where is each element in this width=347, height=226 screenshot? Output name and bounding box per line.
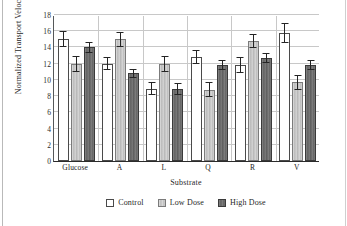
bar-a-low-dose[interactable] xyxy=(115,39,126,161)
error-bar xyxy=(281,23,288,42)
bar-group-q xyxy=(187,16,231,161)
error-bar-cap-top xyxy=(148,82,155,83)
bar-v-low-dose[interactable] xyxy=(292,82,303,161)
error-bar-cap-top xyxy=(263,53,270,54)
bar-slot xyxy=(128,16,139,161)
y-tick-label-14: 14 xyxy=(43,45,51,53)
error-bar-cap-top xyxy=(294,75,301,76)
y-tick-label-16: 16 xyxy=(43,28,51,36)
bar-q-low-dose[interactable] xyxy=(204,90,215,161)
error-bar-stem xyxy=(209,82,210,97)
y-tick-label-8: 8 xyxy=(47,93,51,101)
error-bar-cap-top xyxy=(250,34,257,35)
bar-group-a xyxy=(98,16,142,161)
gridline-y-18 xyxy=(54,14,319,15)
error-bar xyxy=(219,60,226,70)
error-bar-cap-top xyxy=(307,60,314,61)
error-bar-cap-top xyxy=(161,56,168,57)
bar-slot xyxy=(248,16,259,161)
error-bar-cap-bottom xyxy=(219,69,226,70)
error-bar xyxy=(174,83,181,94)
legend-label: High Dose xyxy=(230,198,266,207)
y-tick-label-4: 4 xyxy=(47,126,51,134)
error-bar xyxy=(130,69,137,79)
error-bar-cap-bottom xyxy=(250,47,257,48)
bar-q-high-dose[interactable] xyxy=(217,65,228,161)
error-bar-stem xyxy=(164,56,165,72)
bar-slot xyxy=(235,16,246,161)
error-bar-cap-bottom xyxy=(307,69,314,70)
error-bar-cap-bottom xyxy=(60,46,67,47)
error-bar-cap-bottom xyxy=(130,77,137,78)
error-bar-cap-top xyxy=(73,56,80,57)
error-bar-stem xyxy=(120,32,121,47)
bar-slot xyxy=(217,16,228,161)
bar-slot xyxy=(58,16,69,161)
bar-slot xyxy=(305,16,316,161)
error-bar-cap-top xyxy=(237,57,244,58)
bar-r-high-dose[interactable] xyxy=(261,58,272,161)
error-bar xyxy=(250,34,257,49)
error-bar-cap-bottom xyxy=(161,71,168,72)
error-bar xyxy=(206,82,213,97)
page-edge-rule-left xyxy=(2,0,3,226)
bar-l-high-dose[interactable] xyxy=(172,89,183,161)
error-bar-cap-top xyxy=(219,60,226,61)
bar-group-glucose xyxy=(54,16,98,161)
error-bar-cap-bottom xyxy=(263,62,270,63)
legend-item-low-dose[interactable]: Low Dose xyxy=(158,198,204,207)
bar-q-control[interactable] xyxy=(191,57,202,161)
error-bar-cap-bottom xyxy=(281,42,288,43)
x-tick-label-l: L xyxy=(161,164,166,172)
error-bar-cap-top xyxy=(174,83,181,84)
error-bar xyxy=(237,57,244,73)
bar-slot xyxy=(204,16,215,161)
legend-swatch-icon xyxy=(106,199,114,207)
bar-l-low-dose[interactable] xyxy=(159,64,170,161)
plot-area xyxy=(53,16,319,162)
bar-slot xyxy=(191,16,202,161)
error-bar-cap-top xyxy=(117,32,124,33)
error-bar-cap-bottom xyxy=(73,71,80,72)
error-bar-cap-bottom xyxy=(206,96,213,97)
bar-r-control[interactable] xyxy=(235,65,246,161)
error-bar xyxy=(60,31,67,47)
error-bar-cap-top xyxy=(281,23,288,24)
y-tick-label-2: 2 xyxy=(47,142,51,150)
bar-chart-figure: Normalized Transport Velocity 0246810121… xyxy=(0,0,347,226)
error-bar-cap-bottom xyxy=(193,63,200,64)
error-bar xyxy=(73,56,80,72)
y-axis-tick-labels: 024681012141618 xyxy=(30,16,51,162)
bar-r-low-dose[interactable] xyxy=(248,41,259,161)
bar-slot xyxy=(279,16,290,161)
y-tick-label-18: 18 xyxy=(43,12,51,20)
bar-slot xyxy=(84,16,95,161)
legend-swatch-icon xyxy=(218,199,226,207)
error-bar xyxy=(117,32,124,47)
x-tick-label-glucose: Glucose xyxy=(62,164,88,172)
chart-legend: ControlLow DoseHigh Dose xyxy=(53,198,319,207)
legend-item-control[interactable]: Control xyxy=(106,198,144,207)
bar-slot xyxy=(146,16,157,161)
bar-a-high-dose[interactable] xyxy=(128,73,139,161)
bar-slot xyxy=(102,16,113,161)
bar-glucose-control[interactable] xyxy=(58,39,69,161)
error-bar-cap-top xyxy=(206,82,213,83)
legend-swatch-icon xyxy=(158,199,166,207)
bar-glucose-low-dose[interactable] xyxy=(71,64,82,161)
bar-v-high-dose[interactable] xyxy=(305,65,316,161)
y-axis-title: Normalized Transport Velocity xyxy=(14,0,23,98)
error-bar xyxy=(294,75,301,90)
error-bar-cap-top xyxy=(193,50,200,51)
y-tick-label-0: 0 xyxy=(47,158,51,166)
error-bar-stem xyxy=(253,34,254,49)
bar-l-control[interactable] xyxy=(146,89,157,161)
bar-glucose-high-dose[interactable] xyxy=(84,47,95,161)
error-bar-cap-top xyxy=(60,31,67,32)
error-bar xyxy=(307,60,314,70)
error-bar-stem xyxy=(76,56,77,72)
bar-a-control[interactable] xyxy=(102,64,113,161)
bar-v-control[interactable] xyxy=(279,33,290,161)
legend-item-high-dose[interactable]: High Dose xyxy=(218,198,266,207)
error-bar-cap-bottom xyxy=(86,52,93,53)
